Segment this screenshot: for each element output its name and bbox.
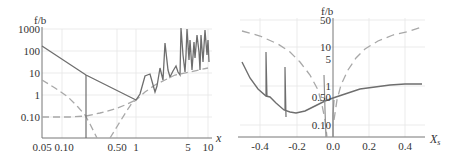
x-tick: 0.05 xyxy=(32,141,52,153)
x-tick: 0.2 xyxy=(362,140,376,152)
x-tick: 0.0 xyxy=(326,140,340,152)
right-x-axis-label: Xs xyxy=(429,132,440,147)
left-y-ticks: 1000 100 10 1 0.10 xyxy=(18,23,41,123)
y-tick: 50 xyxy=(320,14,332,26)
x-tick: -0.2 xyxy=(288,140,305,152)
x-tick: -0.4 xyxy=(251,140,269,152)
x-tick: 10 xyxy=(203,141,215,153)
left-solid-line xyxy=(42,28,209,100)
right-chart: f/b Xs 50 10 5 1 0.50 0.10 -0.4 -0.2 0.0… xyxy=(238,5,440,152)
right-solid-line xyxy=(242,62,422,113)
figure: f/b x 1000 100 10 1 0.10 0.05 0.10 0.50 … xyxy=(0,0,457,157)
right-y-ticks: 50 10 5 1 0.50 0.10 xyxy=(312,14,332,131)
x-tick: 5 xyxy=(185,141,191,153)
right-solid-spike-1 xyxy=(266,52,267,97)
right-solid-spike-2 xyxy=(285,67,286,117)
y-tick: 1 xyxy=(35,89,41,101)
y-tick: 10 xyxy=(320,41,332,53)
y-tick: 10 xyxy=(29,67,41,79)
left-dashed-falling xyxy=(42,80,97,138)
y-tick: 0.50 xyxy=(312,91,332,103)
left-x-ticks: 0.05 0.10 0.50 1 5 10 xyxy=(32,141,214,153)
y-tick: 5 xyxy=(326,53,332,65)
y-tick: 0.10 xyxy=(21,111,41,123)
x-tick: 1 xyxy=(133,141,139,153)
left-x-axis-label: x xyxy=(215,131,222,145)
x-tick: 0.50 xyxy=(107,141,127,153)
left-dashed-flat xyxy=(42,100,136,117)
y-tick: 0.10 xyxy=(312,119,332,131)
y-tick: 100 xyxy=(24,45,41,57)
left-dashed-rising xyxy=(110,68,208,138)
y-tick: 1000 xyxy=(18,23,41,35)
right-x-ticks: -0.4 -0.2 0.0 0.2 0.4 xyxy=(251,140,412,152)
x-tick: 0.4 xyxy=(398,140,412,152)
left-chart: f/b x 1000 100 10 1 0.10 0.05 0.10 0.50 … xyxy=(18,14,222,153)
x-tick: 0.10 xyxy=(54,141,74,153)
right-dashed-line-right xyxy=(334,27,422,120)
